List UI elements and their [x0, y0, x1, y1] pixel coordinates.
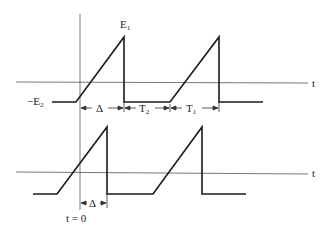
t-zero-label: t = 0 [66, 212, 87, 224]
interval-t2-label: T2 [139, 102, 150, 116]
top-time-axis [16, 82, 308, 83]
top-sawtooth-waveform [52, 37, 263, 102]
interval-t1-label: T1 [186, 102, 197, 116]
low-label-e2: −E2 [27, 95, 44, 109]
bottom-time-axis [16, 172, 308, 174]
bottom-axis-label: t [312, 167, 315, 179]
bottom-sawtooth-waveform [33, 127, 246, 194]
bottom-delta-label: Δ [89, 197, 96, 209]
sawtooth-timing-diagram: E1 −E2 t t Δ T2 T1 Δ t = 0 [0, 0, 327, 236]
interval-delta-label: Δ [96, 102, 103, 114]
top-axis-label: t [312, 77, 315, 89]
peak-label-e1: E1 [120, 18, 131, 32]
